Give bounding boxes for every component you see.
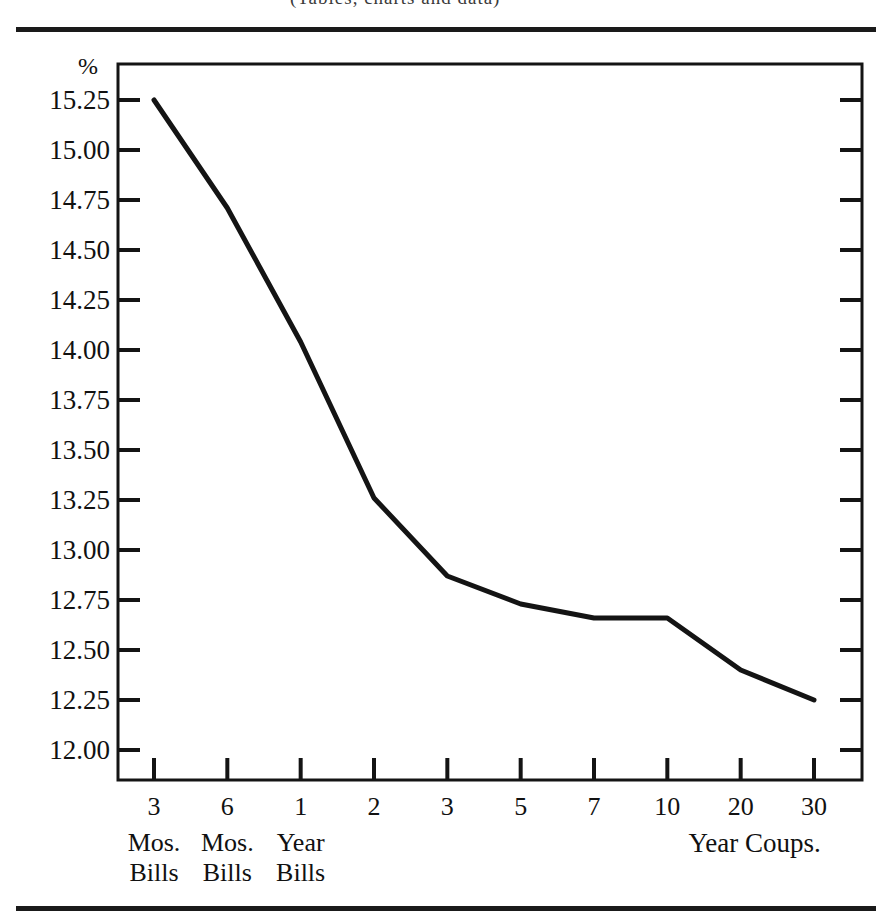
yield-curve-figure: (Tables, charts and data) % 15.2515.0014… (0, 0, 890, 920)
y-tick-label: 15.00 (10, 135, 110, 166)
y-tick-label: 14.00 (10, 335, 110, 366)
y-axis-ticks (118, 100, 862, 750)
chart-plot-area (0, 0, 890, 920)
y-tick-label: 12.75 (10, 585, 110, 616)
y-tick-label: 14.50 (10, 235, 110, 266)
y-tick-label: 13.75 (10, 385, 110, 416)
x-axis-group-label-year-coups: Year Coups. (605, 828, 890, 859)
x-axis-ticks (154, 758, 814, 780)
y-tick-label: 13.00 (10, 535, 110, 566)
y-tick-label: 14.75 (10, 185, 110, 216)
y-tick-label: 12.00 (10, 735, 110, 766)
x-tick-label: 30 (769, 792, 859, 822)
y-tick-label: 15.25 (10, 85, 110, 116)
y-tick-label: 12.25 (10, 685, 110, 716)
x-category-sublabel: YearBills (246, 828, 356, 888)
x-category-sublabel-line: Bills (246, 858, 356, 888)
yield-curve-line (154, 100, 814, 700)
y-tick-label: 14.25 (10, 285, 110, 316)
y-tick-label: 13.25 (10, 485, 110, 516)
x-category-sublabel-line: Year (246, 828, 356, 858)
y-tick-label: 12.50 (10, 635, 110, 666)
y-tick-label: 13.50 (10, 435, 110, 466)
